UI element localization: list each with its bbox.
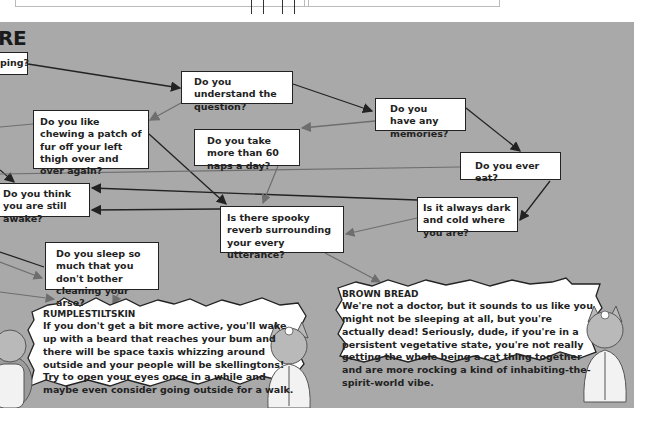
- result-rumplestiltskin: RUMPLESTILTSKIN If you don't get a bit m…: [43, 308, 298, 397]
- top-left-frame: [15, 0, 309, 7]
- result-body: If you don't get a bit more active, you'…: [43, 320, 293, 395]
- question-box-chewing: Do you like chewing a patch of fur off y…: [33, 110, 149, 169]
- result-brown-bread: BROWN BREAD We're not a doctor, but it s…: [342, 288, 597, 390]
- flowchart-panel: RE: [0, 22, 634, 408]
- top-right-frame: [304, 0, 500, 7]
- question-box-memories: Do you have any memories?: [375, 98, 466, 131]
- result-body: We're not a doctor, but it sounds to us …: [342, 300, 593, 388]
- question-box-dark: Is it always dark and cold where you are…: [417, 197, 518, 232]
- question-box-naps: Do you take more than 60 naps a day?: [194, 129, 300, 166]
- divider-line: [282, 0, 283, 14]
- result-title: RUMPLESTILTSKIN: [43, 308, 298, 320]
- divider-line: [263, 0, 264, 14]
- divider-line: [294, 0, 295, 14]
- question-box-sleeping: ping?: [0, 52, 28, 75]
- result-title: BROWN BREAD: [342, 288, 597, 300]
- question-box-awake: Do you think you are still awake?: [0, 183, 90, 217]
- question-box-eat: Do you ever eat?: [460, 152, 561, 180]
- question-box-understand: Do you understand the question?: [181, 71, 293, 104]
- cat-doctor-illustration: [0, 330, 32, 408]
- question-box-cleaning: Do you sleep so much that you don't both…: [45, 242, 159, 290]
- divider-line: [251, 0, 252, 14]
- question-box-reverb: Is there spooky reverb surrounding your …: [220, 206, 344, 253]
